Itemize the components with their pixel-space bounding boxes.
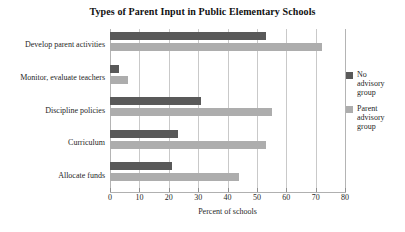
bar-0-3 (110, 130, 178, 138)
legend-item-no-advisory-group: No advisory group (345, 70, 405, 97)
plot-area (110, 29, 345, 192)
bar-1-1 (110, 76, 128, 84)
bar-1-2 (110, 108, 272, 116)
x-tick-label-0: 0 (99, 193, 121, 202)
chart-title: Types of Parent Input in Public Elementa… (0, 6, 405, 17)
x-tick-mark-50 (257, 188, 258, 192)
x-tick-mark-10 (139, 188, 140, 192)
x-axis-label: Percent of schools (110, 207, 345, 216)
legend-label-line-3: group (357, 88, 401, 97)
category-row (110, 94, 345, 127)
category-label: Curriculum (0, 138, 105, 147)
legend-label-line-3: group (357, 122, 401, 131)
legend-label-line-2: advisory (357, 113, 401, 122)
category-label: Develop parent activities (0, 40, 105, 49)
chart-legend: No advisory group Parent advisory group (345, 70, 405, 138)
legend-label-line-1: Parent (357, 104, 401, 113)
bar-0-0 (110, 32, 266, 40)
x-tick-label-80: 80 (334, 193, 356, 202)
x-tick-label-40: 40 (217, 193, 239, 202)
category-row (110, 62, 345, 95)
category-row (110, 127, 345, 160)
x-tick-label-50: 50 (246, 193, 268, 202)
bar-1-0 (110, 43, 322, 51)
bar-0-2 (110, 97, 201, 105)
bar-1-4 (110, 173, 239, 181)
x-tick-mark-80 (345, 188, 346, 192)
bar-0-1 (110, 65, 119, 73)
x-tick-mark-30 (198, 188, 199, 192)
legend-label-line-1: No (357, 70, 401, 79)
x-tick-label-20: 20 (158, 193, 180, 202)
bar-chart-figure: Types of Parent Input in Public Elementa… (0, 0, 405, 232)
legend-swatch-icon-series-1 (346, 106, 353, 113)
x-tick-mark-20 (169, 188, 170, 192)
x-tick-mark-60 (286, 188, 287, 192)
x-tick-mark-0 (110, 188, 111, 192)
category-label: Allocate funds (0, 171, 105, 180)
legend-label-line-2: advisory (357, 79, 401, 88)
x-tick-label-30: 30 (187, 193, 209, 202)
bar-0-4 (110, 162, 172, 170)
x-tick-label-70: 70 (305, 193, 327, 202)
category-row (110, 29, 345, 62)
x-tick-mark-70 (316, 188, 317, 192)
category-label: Discipline policies (0, 106, 105, 115)
x-tick-label-10: 10 (128, 193, 150, 202)
legend-item-parent-advisory-group: Parent advisory group (345, 104, 405, 131)
x-tick-label-60: 60 (275, 193, 297, 202)
legend-swatch-icon-series-0 (346, 72, 353, 79)
category-label: Monitor, evaluate teachers (0, 73, 105, 82)
x-tick-mark-40 (228, 188, 229, 192)
bar-1-3 (110, 141, 266, 149)
